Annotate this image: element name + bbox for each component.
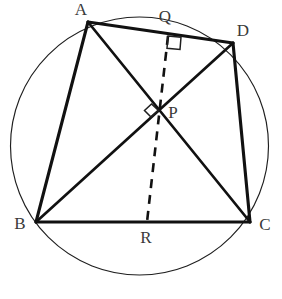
geometry-figure: A B C D P Q R bbox=[0, 0, 282, 299]
perpendicular-q-r bbox=[147, 36, 168, 222]
vertex-label-b: B bbox=[14, 214, 25, 233]
vertex-label-c: C bbox=[259, 215, 270, 234]
geometry-canvas: A B C D P Q R bbox=[0, 0, 282, 299]
vertex-label-a: A bbox=[75, 0, 88, 19]
edge-a-b bbox=[36, 22, 88, 222]
vertex-label-q: Q bbox=[159, 7, 171, 26]
right-angle-mark-at-q bbox=[167, 36, 181, 50]
vertex-label-r: R bbox=[140, 228, 152, 247]
diagonal-b-d bbox=[36, 43, 233, 222]
diagonal-a-c bbox=[88, 22, 250, 222]
vertex-label-p: P bbox=[168, 103, 177, 122]
vertex-label-d: D bbox=[237, 21, 249, 40]
edge-c-d bbox=[233, 43, 250, 222]
